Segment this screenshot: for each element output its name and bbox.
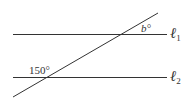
line-l1-label: ℓ1 — [170, 25, 181, 43]
line-l2-subscript: 2 — [176, 76, 181, 86]
angle-150-label: 150° — [29, 64, 50, 76]
parallel-lines-diagram: b° 150° ℓ1 ℓ2 — [0, 0, 194, 99]
line-l1-subscript: 1 — [176, 33, 181, 43]
angle-b-label: b° — [141, 22, 152, 34]
line-l2-label: ℓ2 — [170, 68, 181, 86]
transversal-line — [13, 13, 158, 97]
